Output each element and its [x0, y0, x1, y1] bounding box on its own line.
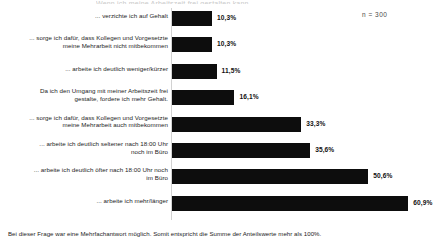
bar-category-label: ... arbeite ich deutlich öfter nach 18:0… [12, 166, 168, 181]
bar-track [172, 169, 368, 184]
bar-category-label: ... sorge ich dafür, dass Kollegen und V… [12, 34, 168, 49]
bar-category-label: ... verzichte ich auf Gehalt [12, 12, 168, 20]
bar-value-label: 60,9% [413, 199, 432, 207]
clipped-chart-title: Wenn ich meine Arbeitszeit frei gestalte… [96, 0, 276, 4]
horizontal-bar-chart: Wenn ich meine Arbeitszeit frei gestalte… [0, 0, 436, 241]
bar-fill [172, 117, 301, 132]
bar-row: ... arbeite ich mehr/länger60,9% [0, 194, 436, 220]
bar-value-label: 50,6% [373, 172, 392, 180]
bar-value-label: 33,3% [306, 120, 325, 128]
bar-track [172, 143, 310, 158]
bar-category-label-line: ... arbeite ich mehr/länger [12, 197, 168, 205]
bar-fill [172, 37, 212, 52]
bar-category-label: ... arbeite ich deutlich weniger/kürzer [12, 65, 168, 73]
bar-category-label-line: ... arbeite ich deutlich weniger/kürzer [12, 65, 168, 73]
bar-track [172, 117, 301, 132]
bar-category-label-line: noch im Büro [12, 148, 168, 156]
bar-category-label-line: im Büro [12, 174, 168, 182]
bar-value-label: 11,5% [222, 67, 241, 75]
bar-category-label-line: ... sorge ich dafür, dass Kollegen und V… [12, 34, 168, 42]
bar-category-label-line: ... verzichte ich auf Gehalt [12, 12, 168, 20]
bar-value-label: 10,3% [217, 14, 236, 22]
bar-track [172, 37, 212, 52]
bar-value-label: 10,3% [217, 40, 236, 48]
bar-track [172, 11, 212, 26]
bar-value-label: 16,1% [239, 93, 258, 101]
bar-row: ... arbeite ich deutlich öfter nach 18:0… [0, 167, 436, 193]
bar-track [172, 196, 408, 211]
bar-fill [172, 196, 408, 211]
bar-category-label-line: ... arbeite ich deutlich öfter nach 18:0… [12, 166, 168, 174]
bar-category-label-line: meine Mehrarbeit auch mitbekommen [12, 121, 168, 129]
bar-row: ... sorge ich dafür, dass Kollegen und V… [0, 35, 436, 61]
bar-row: ... verzichte ich auf Gehalt10,3% [0, 9, 436, 35]
bar-category-label: Da ich den Umgang mit meiner Arbeitszeit… [12, 87, 168, 102]
bar-category-label: ... sorge ich dafür, dass Kollegen und V… [12, 114, 168, 129]
bar-fill [172, 143, 310, 158]
bar-category-label: ... arbeite ich deutlich seltener nach 1… [12, 140, 168, 155]
bar-fill [172, 64, 217, 79]
bar-row: ... arbeite ich deutlich seltener nach 1… [0, 141, 436, 167]
bar-category-label-line: ... arbeite ich deutlich seltener nach 1… [12, 140, 168, 148]
bar-row: Da ich den Umgang mit meiner Arbeitszeit… [0, 88, 436, 114]
bar-category-label: ... arbeite ich mehr/länger [12, 197, 168, 205]
bar-category-label-line: ... sorge ich dafür, dass Kollegen und V… [12, 114, 168, 122]
bar-row: ... arbeite ich deutlich weniger/kürzer1… [0, 62, 436, 88]
bar-category-label-line: Da ich den Umgang mit meiner Arbeitszeit… [12, 87, 168, 95]
bar-fill [172, 169, 368, 184]
bar-track [172, 64, 217, 79]
chart-footnote: Bei dieser Frage war eine Mehrfachantwor… [8, 230, 428, 238]
bar-fill [172, 90, 234, 105]
plot-area: ... verzichte ich auf Gehalt10,3%... sor… [0, 8, 436, 222]
bar-value-label: 35,6% [315, 146, 334, 154]
bar-fill [172, 11, 212, 26]
bar-row: ... sorge ich dafür, dass Kollegen und V… [0, 115, 436, 141]
bar-category-label-line: meine Mehrarbeit nicht mitbekommen [12, 42, 168, 50]
bar-track [172, 90, 234, 105]
bar-category-label-line: gestalte, fordere ich mehr Gehalt. [12, 95, 168, 103]
